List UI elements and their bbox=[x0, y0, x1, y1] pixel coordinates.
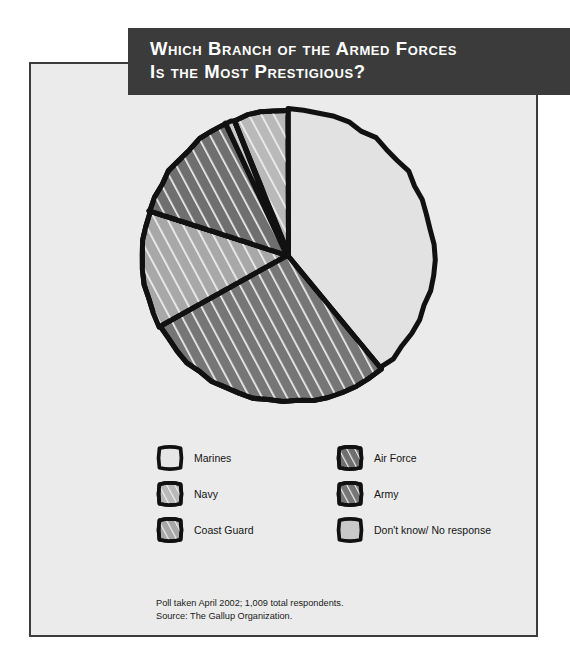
legend-item-coast-guard: Coast Guard bbox=[155, 515, 335, 545]
coast-guard-swatch-icon bbox=[155, 515, 185, 545]
navy-swatch-icon bbox=[155, 479, 185, 509]
legend-label: Marines bbox=[194, 452, 231, 464]
title-line-1: Which Branch of the Armed Forces bbox=[150, 37, 570, 60]
legend-label: Navy bbox=[194, 488, 218, 500]
legend-label: Don't know/ No response bbox=[374, 524, 491, 536]
legend-item-marines: Marines bbox=[155, 443, 335, 473]
marines-swatch-icon bbox=[155, 443, 185, 473]
legend-label: Air Force bbox=[374, 452, 417, 464]
army-swatch-icon bbox=[335, 479, 365, 509]
source-line-2: Source: The Gallup Organization. bbox=[156, 610, 343, 623]
legend-item-army: Army bbox=[335, 479, 515, 509]
legend-row: Navy Army bbox=[155, 479, 525, 509]
legend-item-navy: Navy bbox=[155, 479, 335, 509]
dont-know-swatch-icon bbox=[335, 515, 365, 545]
title-banner: Which Branch of the Armed Forces Is the … bbox=[128, 28, 570, 95]
pie-chart bbox=[0, 0, 570, 651]
legend-item-dont-know: Don't know/ No response bbox=[335, 515, 515, 545]
legend-label: Coast Guard bbox=[194, 524, 254, 536]
source-note: Poll taken April 2002; 1,009 total respo… bbox=[156, 597, 343, 622]
legend-item-air-force: Air Force bbox=[335, 443, 515, 473]
title-line-2: Is the Most Prestigious? bbox=[150, 60, 570, 83]
legend-label: Army bbox=[374, 488, 399, 500]
legend: Marines Air Force Navy bbox=[155, 443, 525, 551]
legend-row: Marines Air Force bbox=[155, 443, 525, 473]
legend-row: Coast Guard Don't know/ No response bbox=[155, 515, 525, 545]
source-line-1: Poll taken April 2002; 1,009 total respo… bbox=[156, 597, 343, 610]
air-force-swatch-icon bbox=[335, 443, 365, 473]
